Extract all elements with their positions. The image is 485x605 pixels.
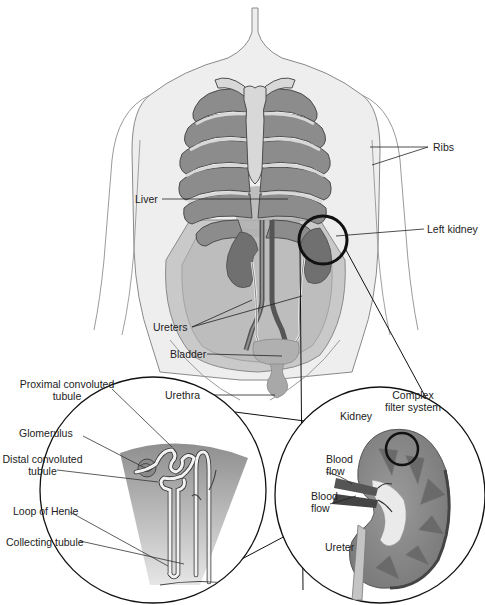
label-blood-flow-1b: flow: [326, 465, 353, 477]
label-proximal-line1: Proximal convoluted: [12, 378, 122, 390]
label-complex-line1: Complex: [378, 389, 448, 401]
label-left-kidney: Left kidney: [427, 223, 478, 235]
label-complex-filter-system: Complex filter system: [378, 389, 448, 413]
label-blood-flow-2a: Blood: [311, 490, 338, 502]
label-glomerulus: Glomerulus: [19, 427, 73, 439]
label-ribs: Ribs: [433, 141, 454, 153]
label-ureter: Ureter: [325, 541, 354, 553]
label-urethra: Urethra: [165, 389, 200, 401]
label-blood-flow-2: Blood flow: [311, 490, 338, 514]
label-proximal-line2: tubule: [12, 390, 122, 402]
label-blood-flow-1a: Blood: [326, 453, 353, 465]
anatomy-diagram: Ribs Liver Left kidney Ureters Bladder U…: [0, 0, 485, 605]
label-collecting-tubule: Collecting tubule: [6, 536, 84, 548]
label-kidney: Kidney: [340, 410, 372, 422]
label-blood-flow-2b: flow: [311, 502, 338, 514]
label-bladder: Bladder: [170, 348, 206, 360]
label-liver: Liver: [135, 193, 158, 205]
label-complex-line2: filter system: [378, 401, 448, 413]
label-ureters: Ureters: [153, 321, 187, 333]
label-loop-of-henle: Loop of Henle: [13, 505, 78, 517]
label-proximal-convoluted-tubule: Proximal convoluted tubule: [12, 378, 122, 402]
kidney-detail: [275, 387, 485, 603]
bladder: [253, 339, 299, 365]
nephron-detail: [40, 377, 266, 603]
label-distal-convoluted-tubule: Distal convoluted tubule: [0, 453, 85, 477]
label-distal-line1: Distal convoluted: [0, 453, 85, 465]
label-distal-line2: tubule: [0, 465, 85, 477]
label-blood-flow-1: Blood flow: [326, 453, 353, 477]
